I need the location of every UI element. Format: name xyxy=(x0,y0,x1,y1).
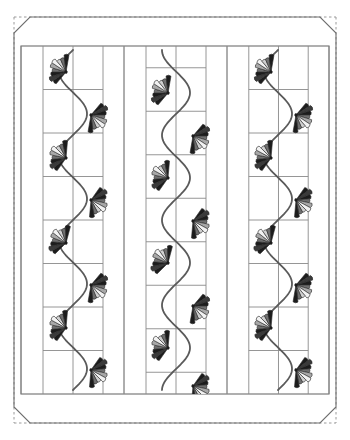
quilt-pattern-svg xyxy=(0,0,350,440)
quilt-diagram-stage: Strip Quilt Layout Diagram xyxy=(0,0,350,440)
